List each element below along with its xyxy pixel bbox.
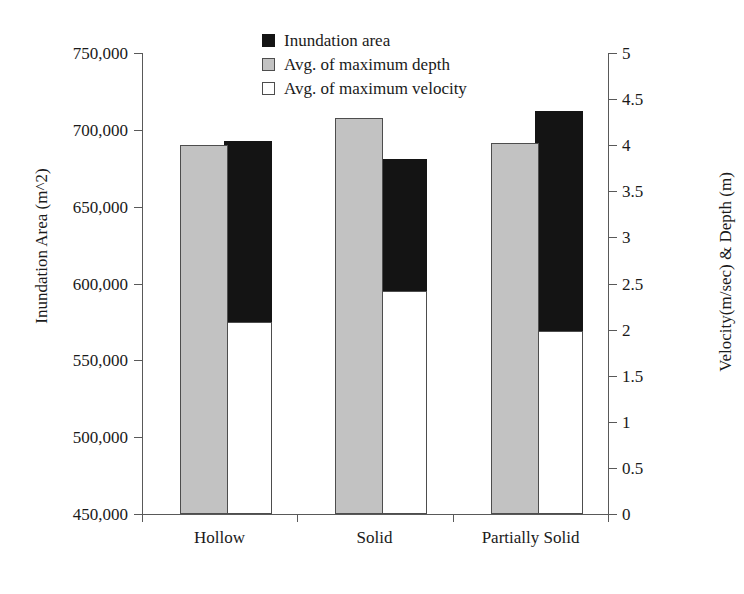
- legend-item-label: Avg. of maximum velocity: [284, 79, 467, 98]
- y-axis-left-tick-label: 500,000: [48, 429, 128, 446]
- y-axis-right-tick-label: 0: [622, 506, 682, 523]
- y-axis-left-tick: [134, 514, 142, 515]
- bar-avg-maximum-velocity: [379, 291, 427, 514]
- y-axis-right-tick-label: 5: [622, 45, 682, 62]
- legend-item-inundation-area: Inundation area: [262, 30, 467, 51]
- x-axis-tick: [453, 514, 454, 522]
- y-axis-left-tick-label: 600,000: [48, 276, 128, 293]
- y-axis-right-tick: [609, 99, 617, 100]
- x-axis-tick: [142, 514, 143, 522]
- bar-avg-maximum-depth: [491, 143, 539, 514]
- y-axis-left-tick-label: 750,000: [48, 45, 128, 62]
- y-axis-left-line: [142, 53, 143, 515]
- y-axis-right-tick: [609, 191, 617, 192]
- bar-avg-maximum-velocity: [535, 331, 583, 514]
- y-axis-right-title: Velocity(m/sec) & Depth (m): [716, 122, 736, 422]
- y-axis-left-tick: [134, 130, 142, 131]
- bar-avg-maximum-velocity: [224, 322, 272, 514]
- x-axis-tick: [608, 514, 609, 522]
- y-axis-left-tick: [134, 207, 142, 208]
- y-axis-right-tick: [609, 53, 617, 54]
- x-axis-category-label: Hollow: [142, 528, 297, 548]
- bar-avg-maximum-depth: [180, 145, 228, 514]
- y-axis-left-tick: [134, 437, 142, 438]
- bar-avg-maximum-depth: [335, 118, 383, 514]
- y-axis-right-tick: [609, 468, 617, 469]
- y-axis-right-tick: [609, 376, 617, 377]
- bar-chart: Inundation area Avg. of maximum depth Av…: [0, 0, 744, 594]
- y-axis-left-tick-label: 650,000: [48, 199, 128, 216]
- y-axis-right-tick-label: 2: [622, 322, 682, 339]
- y-axis-right-tick-label: 4: [622, 137, 682, 154]
- y-axis-right-tick-label: 1.5: [622, 368, 682, 385]
- legend-swatch-icon: [262, 82, 275, 95]
- y-axis-right-tick: [609, 145, 617, 146]
- legend-swatch-icon: [262, 58, 275, 71]
- y-axis-left-tick: [134, 360, 142, 361]
- legend-item-label: Avg. of maximum depth: [284, 55, 450, 74]
- x-axis-category-label: Partially Solid: [453, 528, 608, 548]
- y-axis-right-tick-label: 3.5: [622, 183, 682, 200]
- y-axis-left-tick-label: 700,000: [48, 122, 128, 139]
- y-axis-right-tick: [609, 330, 617, 331]
- legend-item-label: Inundation area: [284, 31, 390, 50]
- y-axis-right-tick-label: 3: [622, 229, 682, 246]
- y-axis-left-title: Inundation Area (m^2): [32, 96, 52, 396]
- y-axis-right-tick-label: 1: [622, 414, 682, 431]
- y-axis-left-tick-label: 550,000: [48, 352, 128, 369]
- y-axis-right-tick: [609, 514, 617, 515]
- legend-item-avg-maximum-depth: Avg. of maximum depth: [262, 54, 467, 75]
- y-axis-right-tick-label: 0.5: [622, 460, 682, 477]
- legend-swatch-icon: [262, 34, 275, 47]
- x-axis-line: [142, 514, 609, 515]
- y-axis-left-tick: [134, 284, 142, 285]
- y-axis-right-tick-label: 2.5: [622, 276, 682, 293]
- legend-item-avg-maximum-velocity: Avg. of maximum velocity: [262, 78, 467, 99]
- chart-legend: Inundation area Avg. of maximum depth Av…: [262, 30, 467, 102]
- x-axis-tick: [297, 514, 298, 522]
- y-axis-left-tick-label: 450,000: [48, 506, 128, 523]
- y-axis-right-tick-label: 4.5: [622, 91, 682, 108]
- y-axis-right-tick: [609, 284, 617, 285]
- y-axis-left-tick: [134, 53, 142, 54]
- x-axis-category-label: Solid: [297, 528, 452, 548]
- y-axis-right-tick: [609, 422, 617, 423]
- y-axis-right-tick: [609, 237, 617, 238]
